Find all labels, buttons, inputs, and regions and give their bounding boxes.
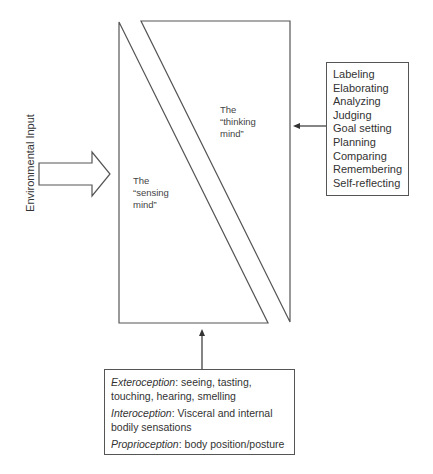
sensing-arrow-head-icon (199, 329, 205, 336)
proprioception-term: Proprioception (111, 438, 179, 450)
sensory-inputs-box: Exteroception: seeing, tasting, touching… (104, 369, 295, 455)
thinking-arrow-head-icon (293, 123, 300, 129)
list-item: Remembering (333, 163, 408, 177)
list-item: Goal setting (333, 122, 408, 136)
list-item: Elaborating (333, 82, 408, 96)
thinking-mind-line-2: “thinking (220, 116, 256, 128)
list-item: Analyzing (333, 95, 408, 109)
environmental-input-label: Environmental Input (24, 113, 36, 213)
exteroception-text: seeing, tasting, (178, 376, 252, 388)
sensing-mind-shape (119, 22, 268, 323)
thinking-mind-shape (141, 21, 290, 322)
sensing-mind-line-2: “sensing (133, 187, 169, 199)
exteroception-entry: Exteroception: seeing, tasting, touching… (111, 375, 294, 403)
thinking-processes-box: Labeling Elaborating Analyzing Judging G… (326, 62, 409, 196)
list-item: Judging (333, 109, 408, 123)
list-item: Labeling (333, 68, 408, 82)
interoception-entry: Interoception: Visceral and internal bod… (111, 406, 294, 434)
exteroception-term: Exteroception (111, 376, 175, 388)
sensing-mind-label: The “sensing mind” (133, 175, 169, 211)
interoception-text-cont: bodily sensations (111, 420, 294, 434)
sensing-mind-line-3: mind” (133, 199, 169, 211)
exteroception-text-cont: touching, hearing, smelling (111, 389, 294, 403)
proprioception-entry: Proprioception: body position/posture (111, 437, 294, 451)
list-item: Comparing (333, 150, 408, 164)
thinking-mind-label: The “thinking mind” (220, 104, 256, 140)
list-item: Planning (333, 136, 408, 150)
interoception-text: Visceral and internal (175, 407, 273, 419)
environmental-input-arrow-icon (39, 152, 110, 196)
interoception-term: Interoception (111, 407, 172, 419)
list-item: Self-reflecting (333, 177, 408, 191)
proprioception-text: body position/posture (182, 438, 285, 450)
thinking-mind-line-3: mind” (220, 128, 256, 140)
sensing-mind-line-1: The (133, 175, 169, 187)
thinking-mind-line-1: The (220, 104, 256, 116)
